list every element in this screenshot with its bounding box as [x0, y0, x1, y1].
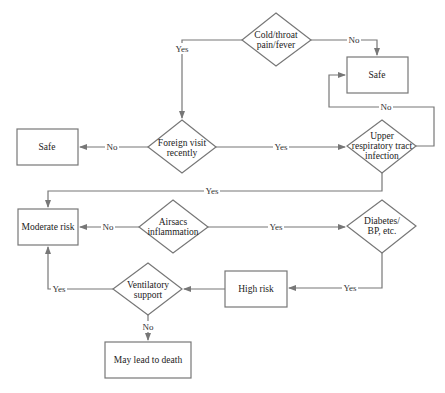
- node-label: Cold/throat: [254, 30, 298, 40]
- flowchart-canvas: Yes No No No Yes Yes No Yes: [0, 0, 445, 393]
- node-label: pain/fever: [257, 40, 296, 50]
- node-label: Foreign visit: [158, 138, 207, 148]
- process-may-lead-to-death[interactable]: May lead to death: [105, 342, 191, 378]
- edge-foreign-no: No: [80, 141, 148, 152]
- node-label: Airsacs: [159, 217, 188, 227]
- node-label: Ventilatory: [127, 280, 169, 290]
- edge-label: Yes: [205, 186, 219, 196]
- edge-label: Yes: [269, 222, 283, 232]
- edge-foreign-yes: Yes: [216, 141, 345, 152]
- edge-cold-yes: Yes: [174, 40, 242, 118]
- edge-label: Yes: [343, 283, 357, 293]
- edge-airsacs-no: No: [80, 221, 139, 232]
- process-moderate-risk[interactable]: Moderate risk: [18, 209, 78, 245]
- process-safe-left[interactable]: Safe: [17, 129, 78, 165]
- edge-label: Yes: [52, 284, 66, 294]
- decision-foreign-visit[interactable]: Foreign visit recently: [148, 120, 216, 173]
- edge-label: Yes: [175, 44, 189, 54]
- node-label: High risk: [238, 284, 274, 294]
- decision-airsacs-inflammation[interactable]: Airsacs inflammation: [139, 200, 208, 253]
- decision-upper-respiratory[interactable]: Upper respiratory tract infection: [347, 120, 416, 173]
- node-label: infection: [365, 151, 399, 161]
- edge-label: No: [381, 102, 392, 112]
- process-high-risk[interactable]: High risk: [225, 271, 287, 307]
- node-label: Safe: [369, 70, 386, 80]
- decision-ventilatory-support[interactable]: Ventilatory support: [113, 263, 182, 315]
- edge-diabetes-yes: Yes: [289, 253, 382, 293]
- node-label: Safe: [39, 142, 56, 152]
- node-label: respiratory tract: [352, 141, 413, 151]
- node-label: inflammation: [147, 227, 198, 237]
- edge-label: Yes: [274, 142, 288, 152]
- node-label: Moderate risk: [21, 222, 74, 232]
- edge-label: No: [107, 142, 118, 152]
- process-safe-top[interactable]: Safe: [347, 57, 408, 93]
- node-label: Diabetes/: [364, 216, 400, 226]
- edge-label: No: [103, 222, 114, 232]
- node-label: BP, etc.: [368, 226, 397, 236]
- edge-ventilatory-no: No: [141, 315, 155, 340]
- edge-label: No: [349, 35, 360, 45]
- node-label: May lead to death: [114, 355, 183, 365]
- node-label: support: [134, 290, 163, 300]
- decision-diabetes-bp[interactable]: Diabetes/ BP, etc.: [347, 200, 416, 253]
- node-label: recently: [167, 148, 198, 158]
- edge-upper-yes: Yes: [48, 173, 382, 207]
- edge-cold-no: No: [311, 34, 377, 55]
- edge-airsacs-yes: Yes: [208, 221, 345, 232]
- decision-cold-throat-fever[interactable]: Cold/throat pain/fever: [242, 13, 311, 66]
- edge-label: No: [143, 322, 154, 332]
- node-label: Upper: [370, 131, 395, 141]
- edge-ventilatory-yes: Yes: [48, 247, 113, 294]
